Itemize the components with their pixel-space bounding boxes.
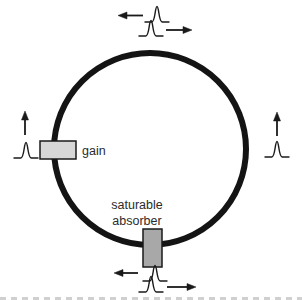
gain-label: gain (82, 144, 106, 158)
right-arrow-icon (167, 284, 196, 291)
left-arrow-icon (114, 270, 138, 277)
pulse-group-left (14, 111, 38, 158)
gain-box (40, 141, 76, 159)
saturable-absorber-box (143, 229, 162, 267)
up-arrow-icon (274, 112, 281, 136)
pulse-group-top (118, 7, 192, 37)
pulse-icon (139, 21, 163, 37)
pulse-icon (143, 266, 167, 282)
pulse-icon (145, 7, 169, 23)
ring-laser-diagram: gain saturable absorber (0, 0, 302, 300)
left-arrow-icon (118, 12, 143, 19)
pulse-group-bottom (114, 266, 196, 293)
pulse-icon (14, 143, 38, 159)
pulse-group-right (265, 112, 289, 157)
ring-laser-figure: gain saturable absorber (0, 0, 302, 300)
pulse-icon (265, 142, 289, 158)
up-arrow-icon (22, 111, 29, 135)
right-arrow-icon (166, 27, 192, 34)
saturable-absorber-label-line1: saturable (111, 198, 162, 212)
saturable-absorber-label-line2: absorber (112, 214, 161, 228)
